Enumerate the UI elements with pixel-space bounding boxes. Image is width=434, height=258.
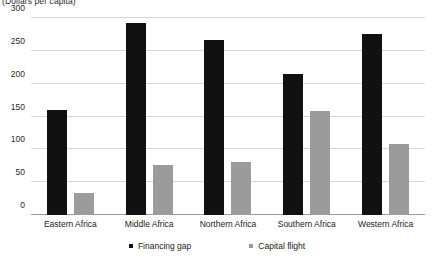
bar <box>47 110 67 215</box>
x-axis-category-label: Eastern Africa <box>31 219 110 229</box>
legend-swatch-icon <box>129 244 133 248</box>
y-axis-tick-label: 0 <box>20 200 25 210</box>
y-axis-tick-label: 250 <box>11 36 25 46</box>
bar <box>74 193 94 215</box>
bar <box>310 111 330 215</box>
bar <box>389 144 409 215</box>
legend-label: Financing gap <box>138 241 191 251</box>
bar <box>204 40 224 215</box>
legend-item[interactable]: Financing gap <box>129 241 191 251</box>
y-axis-tick-label: 50 <box>16 167 25 177</box>
y-axis-tick-label: 100 <box>11 134 25 144</box>
x-axis-category-label: Northern Africa <box>189 219 268 229</box>
x-axis-category-label: Southern Africa <box>267 219 346 229</box>
bar <box>362 34 382 215</box>
y-axis-tick-label: 200 <box>11 69 25 79</box>
bar <box>283 74 303 215</box>
bar <box>231 162 251 215</box>
bar <box>126 23 146 215</box>
bar-group <box>31 18 110 215</box>
bar-group <box>110 18 189 215</box>
x-axis-labels: Eastern AfricaMiddle AfricaNorthern Afri… <box>31 219 425 229</box>
grouped-bar-chart: (Dollars per capita) 050100150200250300 … <box>0 0 434 258</box>
bar-group <box>267 18 346 215</box>
y-axis-tick-label: 300 <box>11 3 25 13</box>
chart-legend: Financing gapCapital flight <box>0 241 434 251</box>
bar-groups <box>31 18 425 215</box>
x-axis-category-label: Middle Africa <box>110 219 189 229</box>
y-axis-tick-label: 150 <box>11 102 25 112</box>
bar-group <box>346 18 425 215</box>
x-axis-category-label: Western Africa <box>346 219 425 229</box>
legend-label: Capital flight <box>258 241 305 251</box>
bar-group <box>189 18 268 215</box>
legend-item[interactable]: Capital flight <box>249 241 305 251</box>
bar <box>153 165 173 215</box>
legend-swatch-icon <box>249 244 253 248</box>
